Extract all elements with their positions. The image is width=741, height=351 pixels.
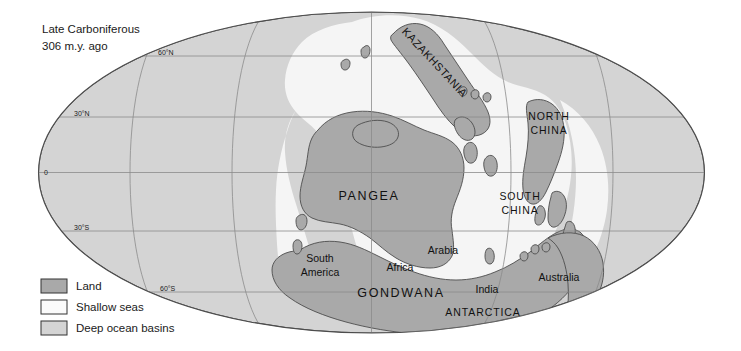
label-africa: Africa	[387, 261, 414, 273]
label-antarctica: ANTARCTICA	[445, 306, 520, 318]
land-island-s3	[531, 245, 539, 254]
legend-swatch-deep-ocean	[41, 321, 67, 335]
lat-label-30n: 30°N	[74, 110, 90, 117]
label-south-china-line2: CHINA	[501, 204, 538, 216]
land-islands-nw	[296, 214, 307, 230]
label-australia: Australia	[539, 271, 580, 283]
land-island-s2	[520, 252, 528, 261]
lat-label-30s: 30°S	[74, 224, 90, 231]
label-north-china-line1: NORTH	[528, 110, 570, 122]
land-island-e3	[484, 155, 498, 176]
map-svg: Late Carboniferous 306 m.y. ago 60°N 30°…	[0, 0, 741, 351]
legend-label-deep-ocean: Deep ocean basins	[76, 322, 175, 334]
label-south-america-line1: South	[306, 252, 334, 264]
land-island-s1	[485, 248, 494, 264]
legend-swatch-land	[41, 279, 67, 293]
legend-label-shallow-seas: Shallow seas	[76, 301, 144, 313]
label-south-america-line2: America	[301, 266, 340, 278]
label-pangea: PANGEA	[339, 189, 400, 203]
lat-label-60s: 60°S	[160, 285, 176, 292]
paleogeographic-map-figure: Late Carboniferous 306 m.y. ago 60°N 30°…	[0, 0, 741, 351]
map-title-line1: Late Carboniferous	[42, 23, 140, 35]
legend-swatch-shallow-seas	[41, 300, 67, 314]
land-island-ne2	[471, 90, 479, 99]
land-island-e2	[464, 142, 478, 163]
land-islands-nw2	[293, 240, 302, 254]
label-india: India	[476, 283, 499, 295]
land-island-ne3	[483, 93, 491, 102]
label-north-china-line2: CHINA	[530, 124, 567, 136]
land-siberia-sliver	[353, 120, 399, 147]
label-arabia: Arabia	[428, 244, 459, 256]
lat-label-equator: 0	[44, 169, 48, 176]
land-island-s4	[542, 243, 550, 252]
lat-label-60n: 60°N	[158, 49, 174, 56]
label-south-china-line1: SOUTH	[499, 190, 540, 202]
legend-label-land: Land	[76, 280, 102, 292]
land-island-n2	[341, 59, 350, 70]
map-title-line2: 306 m.y. ago	[42, 40, 108, 52]
label-gondwana: GONDWANA	[357, 286, 444, 300]
